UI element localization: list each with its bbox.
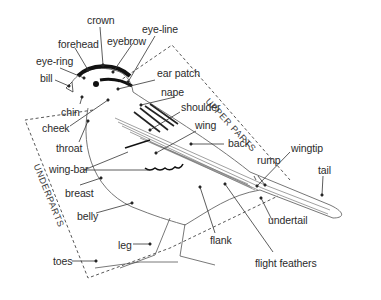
label-back: back [228, 138, 250, 149]
label-nape: nape [161, 87, 184, 98]
back-outline [133, 92, 342, 218]
label-undertail: undertail [268, 215, 307, 226]
label-forehead: forehead [58, 39, 99, 50]
label-toes: toes [53, 256, 72, 267]
label-tail: tail [318, 165, 331, 176]
label-crown: crown [87, 15, 115, 26]
eye [93, 81, 99, 87]
label-flank: flank [210, 235, 232, 246]
undertail-outline [185, 190, 260, 225]
label-eye-ring: eye-ring [36, 56, 73, 67]
belly-outline [86, 108, 185, 225]
label-leg: leg [118, 240, 132, 251]
label-wingtip: wingtip [291, 143, 323, 154]
label-breast: breast [65, 188, 94, 199]
label-belly: belly [77, 211, 98, 222]
label-rump: rump [257, 155, 281, 166]
label-eyebrow: eyebrow [107, 36, 146, 47]
label-eye-line: eye-line [142, 24, 178, 35]
label-wing-bar: wing-bar [49, 164, 88, 175]
label-throat: throat [56, 143, 82, 154]
label-cheek: cheek [42, 123, 70, 134]
bird-anatomy-diagram: UPPER PARTS UNDERPARTS crown forehead ey… [0, 0, 381, 300]
label-bill: bill [40, 73, 52, 84]
label-wing: wing [195, 120, 216, 131]
label-flight-feathers: flight feathers [255, 258, 317, 269]
label-ear-patch: ear patch [157, 68, 200, 79]
label-chin: chin [61, 107, 80, 118]
label-shoulder: shoulder [181, 102, 220, 113]
crown-stripe [78, 66, 130, 76]
